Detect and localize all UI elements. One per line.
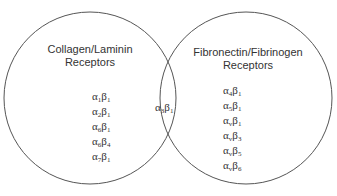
left-title-line2: Receptors — [28, 56, 152, 69]
integrin-label: α2β1 — [92, 104, 110, 119]
left-set-title: Collagen/Laminin Receptors — [28, 43, 152, 69]
left-title-line1: Collagen/Laminin — [28, 43, 152, 56]
right-set-title: Fibronectin/Fibrinogen Receptors — [183, 46, 313, 72]
integrin-label: α7β1 — [92, 149, 110, 164]
integrin-label: αvβ5 — [223, 143, 241, 158]
integrin-label: αvβ3 — [223, 128, 241, 143]
left-circle — [4, 12, 176, 184]
left-set-members: α1β1α2β1α6β1α6β4α7β1 — [92, 89, 110, 164]
integrin-label: α1β1 — [92, 89, 110, 104]
venn-diagram — [0, 0, 337, 196]
integrin-label: α4β1 — [223, 83, 241, 98]
right-set-members: α4β1α5β1αvβ1αvβ3αvβ5αvβ6 — [223, 83, 241, 173]
integrin-label: αvβ6 — [223, 158, 241, 173]
right-circle — [160, 12, 332, 184]
integrin-label: α6β1 — [92, 119, 110, 134]
intersection-members: α3β1 — [155, 100, 173, 115]
integrin-label: αvβ1 — [223, 113, 241, 128]
right-title-line2: Receptors — [183, 59, 313, 72]
integrin-label: α5β1 — [223, 98, 241, 113]
integrin-label: α6β4 — [92, 134, 110, 149]
right-title-line1: Fibronectin/Fibrinogen — [183, 46, 313, 59]
integrin-label: α3β1 — [155, 100, 173, 115]
